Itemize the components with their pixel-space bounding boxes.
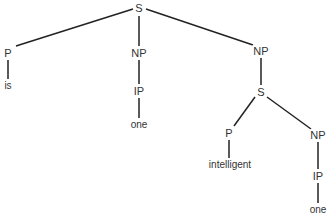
tree-edge xyxy=(267,97,311,129)
tree-node-label: NP xyxy=(130,48,147,59)
tree-edge xyxy=(16,9,133,46)
tree-node-label: P xyxy=(224,128,233,139)
tree-node-label: NP xyxy=(309,130,326,141)
tree-leaf-word: is xyxy=(3,81,12,91)
tree-node-label: S xyxy=(256,87,265,98)
tree-edges xyxy=(0,0,329,217)
tree-node-label: P xyxy=(3,48,12,59)
tree-node-label: S xyxy=(134,3,143,14)
tree-leaf-word: one xyxy=(309,205,328,215)
tree-edge xyxy=(234,97,255,126)
tree-node-label: IP xyxy=(133,86,145,97)
tree-leaf-word: intelligent xyxy=(208,160,252,170)
tree-leaf-word: one xyxy=(130,120,149,130)
tree-node-label: NP xyxy=(252,46,269,57)
tree-edge xyxy=(146,9,253,45)
tree-node-label: IP xyxy=(312,171,324,182)
